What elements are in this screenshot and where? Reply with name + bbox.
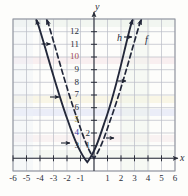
curve-label-h: h (117, 33, 122, 43)
y-tick-9: 9 (64, 65, 79, 74)
y-axis-label: y (95, 2, 99, 12)
x-tick-2: 2 (115, 174, 127, 183)
y-tick-8: 8 (64, 78, 79, 87)
y-tick-3: 3 (64, 141, 79, 150)
curve-label-f: f (145, 35, 148, 45)
x-tick-3: 3 (129, 174, 141, 183)
y-tick-11: 11 (64, 40, 79, 49)
y-tick-4: 4 (64, 128, 79, 137)
x-tick-4: 4 (142, 174, 154, 183)
x-tick-minus-1: -1 (73, 174, 89, 183)
x-tick-5: 5 (156, 174, 168, 183)
y-tick-5: 5 (64, 115, 79, 124)
y-tick-2: 2 (78, 129, 90, 138)
y-tick-1: 1 (78, 141, 90, 150)
graph-figure: 12 11 10 9 8 7 6 5 4 3 2 1 -6 -5 -4 -3 -… (0, 0, 188, 196)
x-axis-label: x (180, 153, 184, 163)
coordinate-plane-svg (0, 0, 188, 196)
y-tick-12: 12 (64, 27, 79, 36)
y-tick-7: 7 (64, 90, 79, 99)
y-tick-6: 6 (64, 103, 79, 112)
y-tick-10: 10 (64, 52, 79, 61)
x-tick-6: 6 (169, 174, 181, 183)
x-tick-1: 1 (102, 174, 114, 183)
